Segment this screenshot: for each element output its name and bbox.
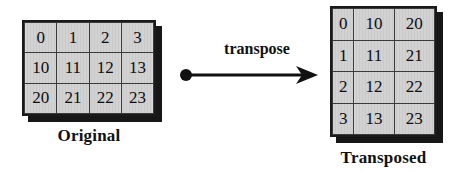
transposed-matrix: 0 10 20 1 11 21 2 12 22 3 [330,6,437,137]
cell-r1c3: 13 [121,53,153,83]
original-matrix-group: 0 1 2 3 10 11 12 13 20 21 22 [22,20,162,122]
transpose-label: transpose [205,40,309,58]
tcell-r0c2: 20 [394,9,434,41]
cell-r0c1: 1 [57,23,89,53]
tcell-r2c2: 22 [394,72,434,104]
original-matrix-body: 0 1 2 3 10 11 12 13 20 21 22 [25,23,154,114]
tcell-r1c1: 11 [354,40,394,72]
cell-r0c3: 3 [121,23,153,53]
table-row: 0 10 20 [333,9,435,41]
cell-r1c2: 12 [89,53,121,83]
table-row: 20 21 22 23 [25,83,154,113]
transpose-diagram: 0 1 2 3 10 11 12 13 20 21 22 [0,0,456,172]
cell-r2c0: 20 [25,83,57,113]
table-row: 2 12 22 [333,72,435,104]
cell-r2c2: 22 [89,83,121,113]
transposed-matrix-body: 0 10 20 1 11 21 2 12 22 3 [333,9,435,135]
original-matrix: 0 1 2 3 10 11 12 13 20 21 22 [22,20,156,116]
cell-r1c1: 11 [57,53,89,83]
cell-r2c1: 21 [57,83,89,113]
tcell-r3c1: 13 [354,103,394,135]
tcell-r2c0: 2 [333,72,354,104]
original-matrix-table: 0 1 2 3 10 11 12 13 20 21 22 [24,22,154,114]
cell-r0c2: 2 [89,23,121,53]
table-row: 0 1 2 3 [25,23,154,53]
transpose-arrow [178,62,324,88]
tcell-r0c0: 0 [333,9,354,41]
transposed-matrix-table: 0 10 20 1 11 21 2 12 22 3 [332,8,435,135]
cell-r2c3: 23 [121,83,153,113]
tcell-r3c2: 23 [394,103,434,135]
transposed-caption: Transposed [320,148,447,168]
original-caption: Original [22,126,156,146]
tcell-r1c2: 21 [394,40,434,72]
tcell-r3c0: 3 [333,103,354,135]
cell-r0c0: 0 [25,23,57,53]
transposed-matrix-group: 0 10 20 1 11 21 2 12 22 3 [330,6,446,146]
tcell-r2c1: 12 [354,72,394,104]
table-row: 1 11 21 [333,40,435,72]
table-row: 10 11 12 13 [25,53,154,83]
cell-r1c0: 10 [25,53,57,83]
tcell-r1c0: 1 [333,40,354,72]
tcell-r0c1: 10 [354,9,394,41]
table-row: 3 13 23 [333,103,435,135]
